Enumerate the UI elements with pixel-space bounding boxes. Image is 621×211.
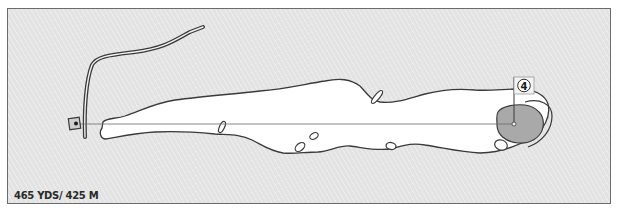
tee-box (68, 117, 80, 129)
distance-label: 465 YDS/ 425 M (14, 190, 98, 201)
fairway (100, 79, 548, 153)
tee-marker (74, 122, 78, 126)
hole-number: 4 (521, 81, 528, 92)
flag-pin: 4 (514, 77, 534, 94)
cup (512, 122, 516, 126)
hole-diagram: 4 (0, 0, 621, 211)
